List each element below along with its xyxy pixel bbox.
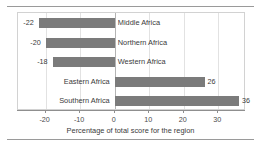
bottom-divider-rule: [7, 139, 254, 140]
bar-row: Northern Africa-20: [18, 33, 244, 53]
x-tick: [183, 110, 184, 113]
category-label: Northern Africa: [118, 36, 167, 49]
x-axis: -20-100102030: [17, 110, 245, 111]
value-label: -22: [23, 16, 33, 29]
x-tick: [148, 110, 149, 113]
category-label: Eastern Africa: [64, 75, 110, 88]
x-tick: [114, 110, 115, 113]
bar[interactable]: [46, 38, 115, 48]
plot-area: Middle Africa-22Northern Africa-20Wester…: [17, 12, 245, 110]
bar-row: Southern Africa36: [18, 91, 244, 111]
bar[interactable]: [115, 96, 239, 106]
bar-row: Western Africa-18: [18, 52, 244, 72]
bar[interactable]: [53, 57, 115, 67]
x-axis-title: Percentage of total score for the region: [0, 126, 261, 135]
x-tick: [217, 110, 218, 113]
category-label: Western Africa: [118, 55, 166, 68]
x-tick: [79, 110, 80, 113]
x-tick-label: 0: [112, 114, 116, 125]
bar[interactable]: [115, 77, 205, 87]
value-label: 36: [242, 94, 250, 107]
chart-figure: Middle Africa-22Northern Africa-20Wester…: [0, 0, 261, 147]
x-tick-label: -20: [39, 114, 49, 125]
bar[interactable]: [39, 18, 115, 28]
value-label: -20: [30, 36, 40, 49]
value-label: 26: [208, 75, 216, 88]
category-label: Southern Africa: [59, 94, 110, 107]
top-divider-rule: [7, 6, 254, 7]
x-tick-label: 10: [144, 114, 152, 125]
bar-row: Eastern Africa26: [18, 72, 244, 92]
x-tick-label: -10: [74, 114, 84, 125]
x-tick-label: 20: [179, 114, 187, 125]
bar-row: Middle Africa-22: [18, 13, 244, 33]
x-tick: [45, 110, 46, 113]
value-label: -18: [37, 55, 47, 68]
category-label: Middle Africa: [118, 16, 160, 29]
x-tick-label: 30: [213, 114, 221, 125]
